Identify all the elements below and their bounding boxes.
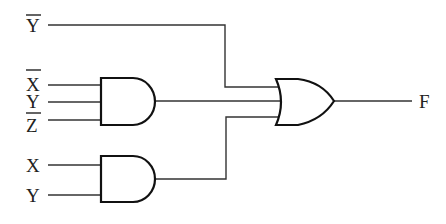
input-label: Z xyxy=(26,115,38,136)
output-label: F xyxy=(419,91,430,112)
input-y-and2: Y xyxy=(26,185,40,206)
input-label: Y xyxy=(26,15,40,36)
input-label: Y xyxy=(26,91,40,112)
wire-ybar-to-or xyxy=(48,25,280,87)
logic-circuit-diagram: Y X Y Z X Y F xyxy=(0,0,446,224)
and-gate-2 xyxy=(101,156,155,202)
input-x: X xyxy=(26,155,40,176)
input-label: Y xyxy=(26,185,40,206)
input-y-bar-top: Y xyxy=(26,15,41,36)
and-gate-1 xyxy=(101,78,155,125)
wire-and2-to-or xyxy=(155,117,280,179)
or-gate xyxy=(276,79,334,125)
input-y-and1: Y xyxy=(26,91,40,112)
input-z-bar: Z xyxy=(26,113,41,136)
input-label: X xyxy=(26,155,40,176)
